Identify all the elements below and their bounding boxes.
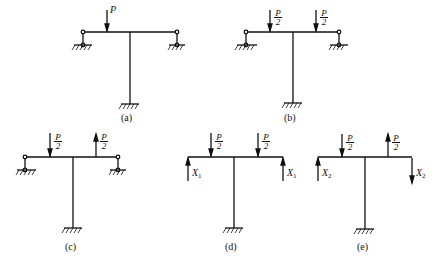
caption-c: (c) [65,241,76,252]
redundant-x1-left: X1 [192,167,202,180]
caption-d: (d) [225,241,237,252]
redundant-x2-left: X2 [322,167,332,180]
load-label-p-half: P2 [215,133,223,150]
load-label-p-half: P2 [274,9,282,26]
redundant-x2-right: X2 [416,167,426,180]
caption-e: (e) [357,241,368,252]
figure: P (a) P2 P2 (b) P2 P2 (c) P2 P2 X1 X1 (d… [0,0,434,262]
load-label-p-half: P2 [54,133,62,150]
load-label-p-half: P2 [346,134,354,151]
redundant-x1-right: X1 [287,167,297,180]
caption-a: (a) [121,112,132,123]
panel-d-frame [186,133,285,233]
structural-diagrams [0,0,434,262]
load-label-p-half: P2 [262,133,270,150]
load-label-p-half: P2 [320,9,328,26]
caption-b: (b) [284,112,296,123]
load-label-p: P [110,4,116,15]
panel-c-frame [16,133,126,233]
load-label-p-half: P2 [392,134,400,151]
panel-a-frame [72,10,185,109]
panel-b-frame [235,10,348,108]
load-label-p-half: P2 [100,133,108,150]
